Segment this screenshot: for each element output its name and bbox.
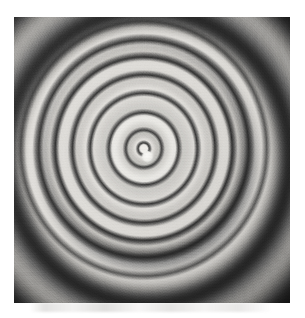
- scan-smudge-artifact: [30, 303, 272, 312]
- sharp-dark-fringe-lines: [14, 17, 290, 303]
- central-bright-spot: [142, 151, 153, 162]
- figure-description: Grayscale photographic plate of a circul…: [0, 0, 1, 1]
- figure-caption: [0, 0, 1, 1]
- figure-page: Grayscale photographic plate of a circul…: [0, 0, 305, 318]
- concentric-fringe-pattern: [14, 17, 290, 303]
- interference-pattern-photograph: [14, 17, 290, 303]
